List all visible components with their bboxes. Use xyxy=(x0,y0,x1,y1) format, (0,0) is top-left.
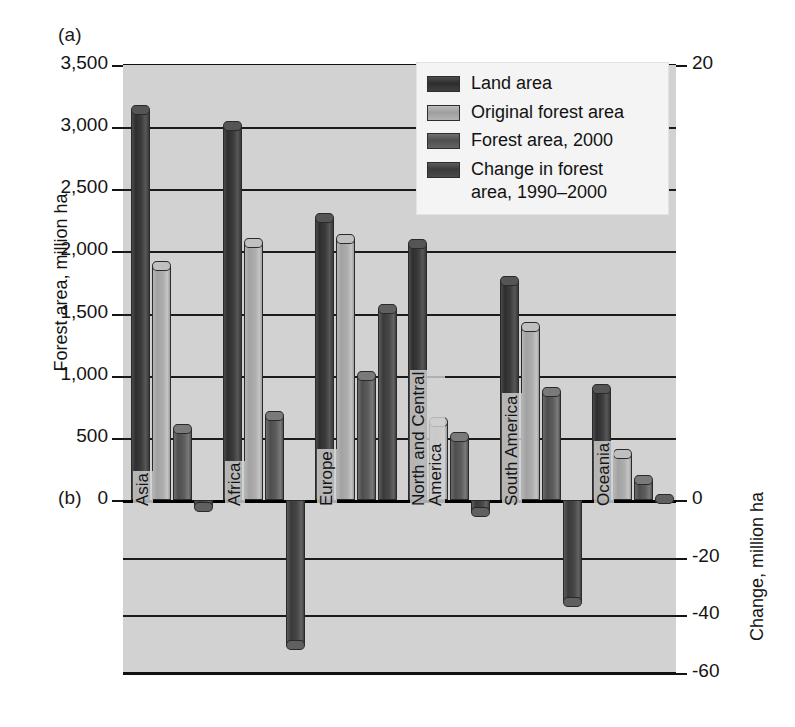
axis-tick-right xyxy=(676,615,687,617)
bar-cap xyxy=(286,640,305,650)
axis-tick-label-left: 500 xyxy=(0,425,108,447)
bar-cap xyxy=(408,239,427,249)
legend-label-line: Change in forest xyxy=(471,158,607,181)
bar xyxy=(563,500,582,607)
category-label-line: America xyxy=(427,372,444,506)
legend-item: Change in forestarea, 1990–2000 xyxy=(427,158,658,203)
bar-cap xyxy=(450,432,469,442)
bar-body xyxy=(563,500,582,602)
bar xyxy=(223,121,242,500)
category-label-line: Oceania xyxy=(594,443,614,506)
legend-label: Original forest area xyxy=(471,101,624,124)
bar-cap xyxy=(542,387,561,397)
category-label: Oceania xyxy=(594,441,614,508)
bar-cap xyxy=(223,121,242,131)
legend-label-line: Land area xyxy=(471,72,552,95)
figure-canvas: (a) (b) Forest area, million ha Change, … xyxy=(0,0,795,727)
bar-cap xyxy=(244,238,263,248)
axis-tick-label-left: 3,500 xyxy=(0,52,108,74)
bar xyxy=(173,424,192,500)
legend-item: Land area xyxy=(427,72,658,95)
legend-item: Forest area, 2000 xyxy=(427,129,658,152)
bar xyxy=(131,105,150,500)
bar xyxy=(286,500,305,650)
legend-swatch-icon xyxy=(427,105,460,121)
bar-cap xyxy=(131,105,150,115)
bar xyxy=(336,234,355,500)
axis-tick-label-right: -20 xyxy=(692,545,762,567)
bar-body xyxy=(542,392,561,500)
bar-body xyxy=(173,429,192,500)
bar-body xyxy=(378,309,397,500)
bar-body xyxy=(450,437,469,500)
bar-cap xyxy=(315,213,334,223)
bar-cap xyxy=(357,371,376,381)
gridline xyxy=(123,251,676,253)
bar xyxy=(471,500,490,517)
axis-tick-label-left: 0 xyxy=(0,487,108,509)
category-label: Africa xyxy=(225,461,245,508)
bar-body xyxy=(336,239,355,500)
bar-cap xyxy=(471,507,490,517)
bar-cap xyxy=(634,475,653,485)
axis-tick-left xyxy=(112,251,123,253)
bar-body xyxy=(521,327,540,500)
axis-tick-left xyxy=(112,314,123,316)
bar-cap xyxy=(655,494,674,504)
chart-legend: Land areaOriginal forest areaForest area… xyxy=(416,62,669,215)
bar-cap xyxy=(563,597,582,607)
bar-cap xyxy=(152,261,171,271)
category-label: Europe xyxy=(317,449,337,508)
category-label: North and CentralAmerica xyxy=(410,370,445,508)
bar xyxy=(152,261,171,500)
axis-tick-label-right: 20 xyxy=(692,52,762,74)
axis-tick-left xyxy=(112,127,123,129)
gridline xyxy=(123,558,676,560)
bar-cap xyxy=(265,411,284,421)
bar-cap xyxy=(500,276,519,286)
bar xyxy=(378,304,397,500)
bar-cap xyxy=(173,424,192,434)
axis-tick-label-right: -60 xyxy=(692,660,762,682)
axis-tick-right xyxy=(676,500,687,502)
bar-body xyxy=(152,266,171,500)
category-label-line: North and Central xyxy=(410,372,427,506)
gridline xyxy=(123,615,676,617)
axis-tick-left xyxy=(112,65,123,67)
panel-label-a: (a) xyxy=(58,24,82,46)
plot-border-bottom xyxy=(123,672,676,675)
bar xyxy=(655,500,674,504)
axis-tick-label-left: 3,000 xyxy=(0,114,108,136)
axis-tick-label-left: 2,000 xyxy=(0,238,108,260)
bar-cap xyxy=(194,502,213,512)
axis-tick-label-left: 1,500 xyxy=(0,301,108,323)
category-label-line: Africa xyxy=(225,463,245,506)
legend-swatch-icon xyxy=(427,162,460,178)
legend-label: Forest area, 2000 xyxy=(471,129,613,152)
bar-body xyxy=(131,110,150,500)
axis-tick-label-left: 1,000 xyxy=(0,363,108,385)
legend-item: Original forest area xyxy=(427,101,658,124)
axis-tick-left xyxy=(112,500,123,502)
bar-body xyxy=(613,454,632,500)
bar xyxy=(521,322,540,500)
axis-tick-left xyxy=(112,189,123,191)
axis-tick-left xyxy=(112,376,123,378)
bar-cap xyxy=(521,322,540,332)
axis-tick-right xyxy=(676,558,687,560)
axis-tick-right xyxy=(676,65,687,67)
bar-body xyxy=(223,126,242,500)
bar xyxy=(613,449,632,500)
bar xyxy=(194,500,213,512)
legend-swatch-icon xyxy=(427,76,460,92)
legend-label-line: area, 1990–2000 xyxy=(471,181,607,204)
bar-body xyxy=(286,500,305,645)
bar-body xyxy=(357,376,376,500)
axis-tick-left xyxy=(112,438,123,440)
axis-tick-label-right: -40 xyxy=(692,602,762,624)
axis-tick-right xyxy=(676,673,687,675)
bar xyxy=(357,371,376,500)
legend-label: Change in forestarea, 1990–2000 xyxy=(471,158,607,203)
legend-label: Land area xyxy=(471,72,552,95)
category-label-line: Asia xyxy=(133,473,153,506)
